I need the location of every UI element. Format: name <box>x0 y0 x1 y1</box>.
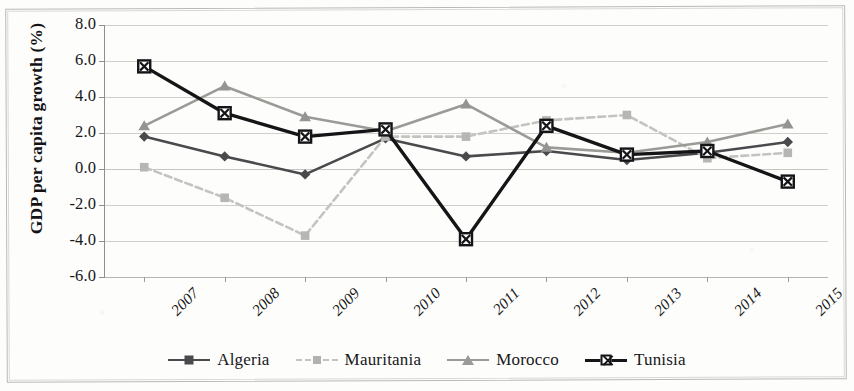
x-tick-mark <box>466 277 467 282</box>
legend-item-mauritania[interactable]: Mauritania <box>296 350 422 370</box>
x-tick-mark <box>627 277 628 282</box>
x-tick-label: 2013 <box>650 284 685 319</box>
legend-swatch-tunisia-icon <box>585 353 627 367</box>
legend-label: Mauritania <box>345 350 422 370</box>
x-tick-label: 2008 <box>248 284 283 319</box>
x-tick-mark <box>707 277 708 282</box>
legend-label: Morocco <box>496 350 559 370</box>
x-tick-mark <box>788 277 789 282</box>
legend-label: Algeria <box>217 350 269 370</box>
legend-swatch-mauritania-icon <box>296 353 338 367</box>
x-tick-label: 2012 <box>570 284 605 319</box>
x-tick-mark <box>305 277 306 282</box>
x-axis: 200720082009201020112012201320142015 <box>0 0 854 391</box>
x-tick-mark <box>225 277 226 282</box>
legend-item-tunisia[interactable]: Tunisia <box>585 350 686 370</box>
x-tick-mark <box>144 277 145 282</box>
x-tick-label: 2014 <box>731 284 766 319</box>
chart-legend: AlgeriaMauritaniaMoroccoTunisia <box>0 350 854 370</box>
legend-item-algeria[interactable]: Algeria <box>168 350 269 370</box>
x-tick-label: 2009 <box>328 284 363 319</box>
x-tick-label: 2011 <box>489 284 523 318</box>
x-tick-mark <box>386 277 387 282</box>
x-tick-label: 2015 <box>811 284 846 319</box>
legend-label: Tunisia <box>634 350 686 370</box>
x-tick-mark <box>546 277 547 282</box>
chart-figure: GDP per capita growth (%) 8.06.04.02.00.… <box>0 0 854 391</box>
line-chart: GDP per capita growth (%) 8.06.04.02.00.… <box>0 0 854 391</box>
legend-swatch-algeria-icon <box>168 353 210 367</box>
legend-item-morocco[interactable]: Morocco <box>447 350 559 370</box>
x-tick-label: 2007 <box>168 284 203 319</box>
x-tick-label: 2010 <box>409 284 444 319</box>
legend-swatch-morocco-icon <box>447 353 489 367</box>
